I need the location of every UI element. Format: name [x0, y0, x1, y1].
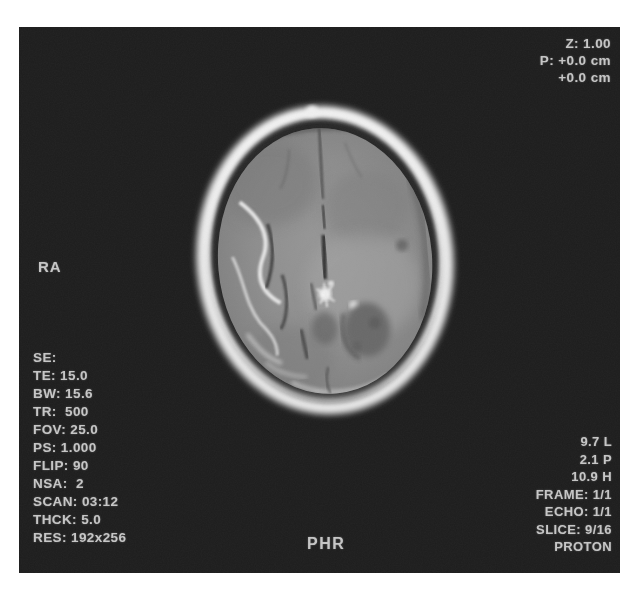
- patient-label: PHR: [307, 535, 345, 553]
- zoom-pan-readout: Z: 1.00P: +0.0 cm+0.0 cm: [540, 35, 611, 86]
- annotation-line: PROTON: [536, 538, 612, 556]
- annotation-line: ECHO: 1/1: [536, 503, 612, 521]
- annotation-line: RES: 192x256: [33, 529, 126, 547]
- annotation-line: FOV: 25.0: [33, 421, 126, 439]
- orientation-marker: RA: [38, 258, 62, 276]
- slice-position-readout: 9.7 L2.1 P10.9 HFRAME: 1/1ECHO: 1/1SLICE…: [536, 433, 612, 556]
- annotation-line: 10.9 H: [536, 468, 612, 486]
- annotation-line: 9.7 L: [536, 433, 612, 451]
- annotation-line: TR: 500: [33, 403, 126, 421]
- annotation-line: SE:: [33, 349, 126, 367]
- annotation-line: PS: 1.000: [33, 439, 126, 457]
- annotation-line: Z: 1.00: [540, 35, 611, 52]
- annotation-line: SCAN: 03:12: [33, 493, 126, 511]
- annotation-line: 2.1 P: [536, 451, 612, 469]
- annotation-line: FRAME: 1/1: [536, 486, 612, 504]
- annotation-line: FLIP: 90: [33, 457, 126, 475]
- annotation-line: THCK: 5.0: [33, 511, 126, 529]
- annotation-line: +0.0 cm: [540, 69, 611, 86]
- annotation-line: TE: 15.0: [33, 367, 126, 385]
- annotation-line: BW: 15.6: [33, 385, 126, 403]
- mri-display-panel: Z: 1.00P: +0.0 cm+0.0 cm RA SE:TE: 15.0B…: [19, 27, 620, 573]
- annotation-line: SLICE: 9/16: [536, 521, 612, 539]
- acquisition-parameters: SE:TE: 15.0BW: 15.6TR: 500FOV: 25.0PS: 1…: [33, 349, 126, 547]
- annotation-line: P: +0.0 cm: [540, 52, 611, 69]
- annotation-line: NSA: 2: [33, 475, 126, 493]
